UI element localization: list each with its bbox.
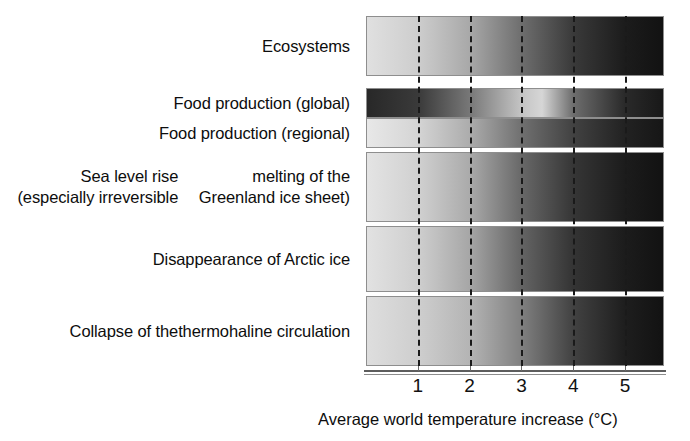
ember-gradient (367, 119, 663, 147)
x-axis-title: Average world temperature increase (°C) (318, 409, 618, 429)
tick-label-4: 4 (560, 374, 586, 398)
row-label-text-line2: thermohaline circulation (178, 321, 350, 342)
row-label-text-line2: melting of the Greenland ice sheet) (178, 166, 350, 208)
tick-mark-1 (418, 366, 419, 371)
ember-bar-food-production-global (366, 88, 664, 118)
ember-bars-plot-area (366, 16, 664, 366)
tick-mark-2 (470, 366, 471, 371)
row-label-text: Food production (global) (174, 93, 350, 114)
ember-bar-sea-level-rise (366, 152, 664, 222)
row-label-sea-level-rise: Sea level rise (especially irreversible … (0, 152, 358, 222)
row-label-text-line1: Collapse of the (70, 321, 179, 342)
ember-gradient (367, 89, 663, 117)
tick-mark-3 (521, 366, 522, 371)
row-label-food-production-regional: Food production (regional) (0, 118, 358, 148)
row-label-text: Ecosystems (262, 36, 350, 57)
ember-gradient (367, 153, 663, 221)
tick-mark-5 (625, 366, 626, 371)
row-label-text-line1: Sea level rise (especially irreversible (0, 166, 178, 208)
row-label-column: Ecosystems Food production (global) Food… (0, 0, 358, 441)
ember-bar-arctic-ice (366, 226, 664, 292)
row-label-thermohaline-collapse: Collapse of the thermohaline circulation (0, 296, 358, 366)
tick-label-2: 2 (457, 374, 483, 398)
tick-mark-4 (573, 366, 574, 371)
tick-label-5: 5 (612, 374, 638, 398)
ember-gradient (367, 297, 663, 365)
ember-bar-ecosystems (366, 16, 664, 76)
row-label-ecosystems: Ecosystems (0, 16, 358, 76)
tick-label-3: 3 (508, 374, 534, 398)
burning-embers-figure: Ecosystems Food production (global) Food… (0, 0, 690, 441)
row-label-arctic-ice: Disappearance of Arctic ice (0, 226, 358, 292)
x-axis-line (364, 370, 666, 372)
row-label-food-production-global: Food production (global) (0, 88, 358, 118)
ember-bar-food-production-regional (366, 118, 664, 148)
ember-gradient (367, 17, 663, 75)
tick-label-1: 1 (405, 374, 431, 398)
row-label-text: Disappearance of Arctic ice (153, 249, 350, 270)
ember-bar-thermohaline-collapse (366, 296, 664, 366)
row-label-text: Food production (regional) (159, 123, 350, 144)
ember-gradient (367, 227, 663, 291)
